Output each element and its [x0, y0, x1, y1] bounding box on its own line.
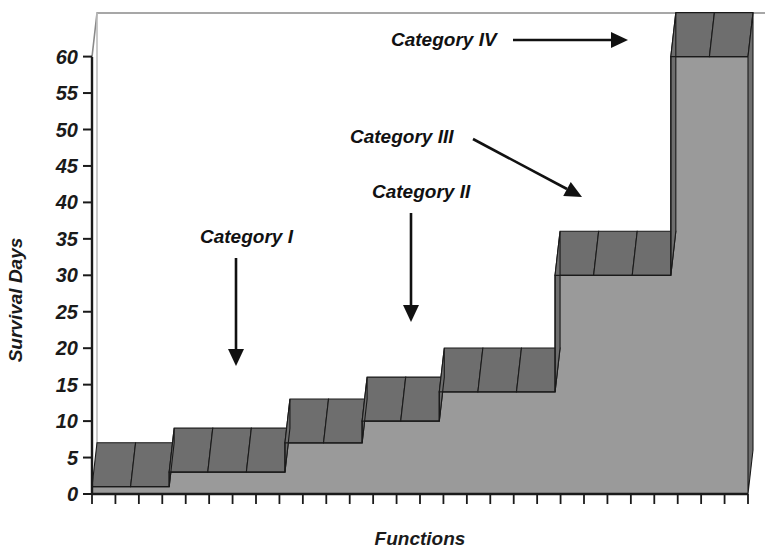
- annotation-2: Category II: [372, 181, 471, 322]
- y-tick-label: 5: [67, 447, 79, 469]
- y-tick-label: 40: [55, 191, 78, 213]
- y-tick-label: 15: [56, 374, 79, 396]
- surface-facet: [439, 348, 483, 392]
- y-tick-label: 35: [56, 228, 79, 250]
- surface-facet: [748, 13, 753, 494]
- y-tick-label: 50: [56, 119, 78, 141]
- annotation-arrow-head: [228, 349, 244, 366]
- y-tick-label: 60: [56, 46, 78, 68]
- category-label: Category I: [200, 226, 294, 247]
- annotation-arrow-head: [611, 32, 628, 48]
- x-axis: [92, 494, 748, 504]
- surface-facet: [169, 428, 213, 472]
- y-axis-title: Survival Days: [5, 238, 26, 363]
- surface-facet: [632, 231, 676, 275]
- surface-facet: [671, 13, 676, 276]
- y-tick-label: 55: [56, 82, 79, 104]
- surface-facet: [594, 231, 638, 275]
- surface-facet: [208, 428, 252, 472]
- annotation-4: Category IV: [391, 29, 628, 50]
- surface-facet: [285, 399, 329, 443]
- surface-facet: [246, 428, 290, 472]
- surface-facet: [516, 348, 560, 392]
- chart-figure: 051015202530354045505560 Survival Days F…: [0, 0, 782, 555]
- surface-facet: [401, 377, 445, 421]
- y-tick-label: 0: [67, 483, 78, 505]
- annotation-1: Category I: [200, 226, 294, 366]
- x-axis-title: Functions: [375, 528, 466, 549]
- step-area-chart-svg: 051015202530354045505560 Survival Days F…: [0, 0, 782, 555]
- annotation-arrow-shaft: [473, 139, 567, 189]
- surface-facet: [362, 377, 406, 421]
- surface-facet: [92, 443, 136, 487]
- surface-facet: [478, 348, 522, 392]
- y-tick-label: 25: [55, 301, 79, 323]
- annotation-arrow-head: [403, 305, 419, 322]
- surface-facet: [131, 443, 175, 487]
- y-tick-label: 20: [55, 337, 78, 359]
- y-axis: 051015202530354045505560: [55, 46, 92, 505]
- y-tick-label: 45: [55, 155, 79, 177]
- category-label: Category IV: [391, 29, 498, 50]
- surface-facet: [671, 13, 715, 57]
- y-tick-label: 30: [56, 264, 78, 286]
- category-label: Category II: [372, 181, 471, 202]
- surface-facet: [324, 399, 368, 443]
- y-tick-label: 10: [56, 410, 78, 432]
- surface-facet: [709, 13, 753, 57]
- surface-facet: [555, 231, 599, 275]
- data-surface: [92, 13, 753, 494]
- category-label: Category III: [350, 126, 454, 147]
